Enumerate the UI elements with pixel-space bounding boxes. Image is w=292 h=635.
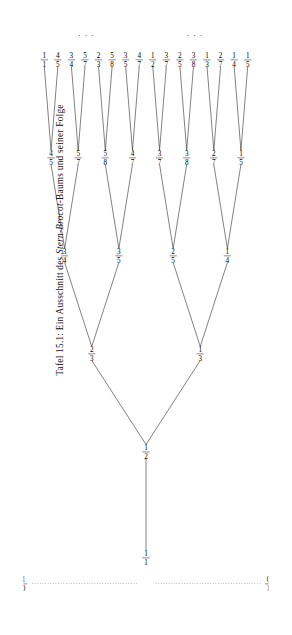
fraction-numerator: 5 — [110, 52, 114, 60]
fraction-denominator: 7 — [219, 61, 223, 69]
fraction-numerator: 1 — [226, 248, 230, 256]
tree-edge — [214, 67, 221, 151]
fraction-numerator: 1 — [205, 52, 209, 60]
tree-node: 58 — [108, 52, 115, 68]
fraction-numerator: 1 — [42, 52, 46, 60]
tree-node: 11 — [41, 52, 48, 68]
ellipsis-marker: · · · — [78, 31, 95, 40]
fraction-denominator: 5 — [178, 61, 182, 69]
ellipsis-marker: · · · — [187, 31, 204, 40]
fraction-denominator: 7 — [165, 61, 169, 69]
tree-node: 57 — [81, 52, 88, 68]
boundary-node-zero: 01 — [265, 576, 269, 592]
fraction-denominator: 1 — [267, 585, 269, 593]
tree-node: 25 — [176, 52, 183, 68]
tree-edge — [105, 67, 112, 151]
fraction-denominator: 3 — [205, 61, 209, 69]
tree-edge — [187, 67, 194, 151]
tree-node: 15 — [244, 52, 251, 68]
fraction-denominator: 3 — [198, 355, 202, 363]
fraction-numerator: 1 — [151, 52, 155, 60]
fraction-denominator: 2 — [144, 453, 148, 461]
tree-edge — [71, 67, 78, 151]
tree-edge — [92, 361, 146, 445]
fraction-denominator: 7 — [83, 61, 87, 69]
fraction-numerator: 3 — [192, 52, 196, 60]
tree-node-root: 11 — [142, 550, 149, 566]
tree-node: 14 — [224, 248, 231, 264]
fraction-numerator: 1 — [246, 52, 250, 60]
tree-edge — [51, 67, 58, 151]
fraction-denominator: 4 — [232, 61, 236, 69]
fraction-denominator: 5 — [56, 61, 60, 69]
fraction-denominator: 5 — [117, 257, 121, 265]
tree-node: 12 — [149, 52, 156, 68]
fraction-denominator: 5 — [171, 257, 175, 265]
fraction-numerator: 3 — [70, 52, 74, 60]
tree-edge — [126, 67, 133, 151]
fraction-denominator: 4 — [226, 257, 230, 265]
fraction-denominator: 7 — [158, 159, 162, 167]
fraction-denominator: 7 — [131, 159, 135, 167]
fraction-numerator: 4 — [131, 150, 135, 158]
tree-node: 14 — [231, 52, 238, 68]
fraction-numerator: 3 — [158, 150, 162, 158]
tree-node: 25 — [170, 248, 177, 264]
fraction-numerator: 2 — [171, 248, 175, 256]
tree-node: 45 — [54, 52, 61, 68]
fraction-numerator: 1 — [232, 52, 236, 60]
fraction-numerator: 5 — [83, 52, 87, 60]
tree-node: 47 — [129, 150, 136, 166]
fraction-denominator: 8 — [110, 61, 114, 69]
tree-edge — [99, 67, 106, 151]
ellipsis-dots: · · · — [187, 31, 204, 40]
fraction-numerator: 2 — [219, 52, 223, 60]
fraction-denominator: 5 — [49, 159, 53, 167]
tree-edge — [65, 263, 92, 347]
fraction-denominator: 0 — [24, 585, 26, 593]
tree-node: 15 — [237, 150, 244, 166]
tree-node: 37 — [156, 150, 163, 166]
fraction-numerator: 3 — [117, 248, 121, 256]
tree-edge — [241, 67, 248, 151]
tree-edge — [214, 165, 228, 249]
figure-page: Tafel 15.1: Ein Ausschnitt des Stern-Bro… — [0, 0, 292, 635]
fraction-denominator: 8 — [192, 61, 196, 69]
fraction-numerator: 2 — [90, 346, 94, 354]
fraction-denominator: 7 — [137, 61, 141, 69]
tree-node: 37 — [163, 52, 170, 68]
fraction-numerator: 4 — [137, 52, 141, 60]
fraction-denominator: 1 — [42, 61, 46, 69]
tree-node: 45 — [47, 150, 54, 166]
fraction-numerator: 3 — [165, 52, 169, 60]
tree-node: 38 — [183, 150, 190, 166]
fraction-numerator: 3 — [185, 150, 189, 158]
fraction-numerator: 1 — [144, 444, 148, 452]
tree-canvas: 1514271338253712473558235734451115273837… — [24, 18, 269, 618]
fraction-numerator: 1 — [239, 150, 243, 158]
fraction-denominator: 4 — [63, 257, 67, 265]
fraction-denominator: 2 — [151, 61, 155, 69]
fraction-numerator: 0 — [267, 576, 269, 584]
tree-edge — [44, 67, 51, 151]
tree-node: 58 — [102, 150, 109, 166]
tree-node: 57 — [75, 150, 82, 166]
fraction-denominator: 8 — [104, 159, 108, 167]
tree-edge — [119, 165, 133, 249]
tree-edge — [160, 67, 167, 151]
tree-node: 35 — [115, 248, 122, 264]
fraction-numerator: 1 — [144, 550, 148, 558]
fraction-numerator: 3 — [124, 52, 128, 60]
tree-node: 13 — [197, 346, 204, 362]
fraction-denominator: 1 — [144, 559, 148, 567]
boundary-node-infinity: 10 — [24, 576, 28, 592]
tree-edge — [234, 67, 241, 151]
fraction-denominator: 5 — [239, 159, 243, 167]
fraction-numerator: 4 — [56, 52, 60, 60]
fraction-denominator: 3 — [97, 61, 101, 69]
tree-node: 13 — [203, 52, 210, 68]
tree-node: 27 — [217, 52, 224, 68]
tree-edge — [153, 67, 160, 151]
tree-edge — [180, 67, 187, 151]
figure-area: 1514271338253712473558235734451115273837… — [0, 0, 292, 635]
